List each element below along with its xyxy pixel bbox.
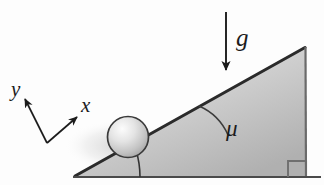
y-axis-label: y: [11, 79, 20, 100]
ball: [108, 117, 149, 158]
friction-angle-label: μ: [226, 117, 238, 140]
inclined-plane: [75, 48, 306, 178]
x-axis-label: x: [81, 95, 90, 116]
y-axis-arrow: [25, 99, 47, 143]
diagram-canvas: [0, 0, 324, 185]
physics-diagram: g μ x y: [0, 0, 324, 185]
gravity-label: g: [236, 25, 249, 50]
